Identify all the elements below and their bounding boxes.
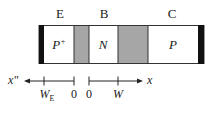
base-doping-label: N (99, 37, 108, 53)
tick-label-zero-right: 0 (86, 87, 92, 102)
left-arrowhead-icon (24, 79, 30, 84)
collector-doping-label: P (169, 37, 177, 53)
x-double-prime-label: x" (8, 73, 18, 88)
bc-depletion-region (118, 26, 148, 64)
emitter-contact (39, 25, 44, 64)
emitter-doping-label: P+ (52, 37, 65, 53)
tick-label-we: WE (40, 87, 55, 103)
tick-label-w: W (113, 87, 123, 102)
x-label: x (147, 73, 152, 88)
tick-label-zero-left: 0 (71, 87, 77, 102)
collector-contact (198, 25, 204, 64)
right-arrowhead-icon (137, 79, 143, 84)
transistor-diagram (0, 0, 210, 116)
eb-depletion-region (74, 26, 89, 64)
